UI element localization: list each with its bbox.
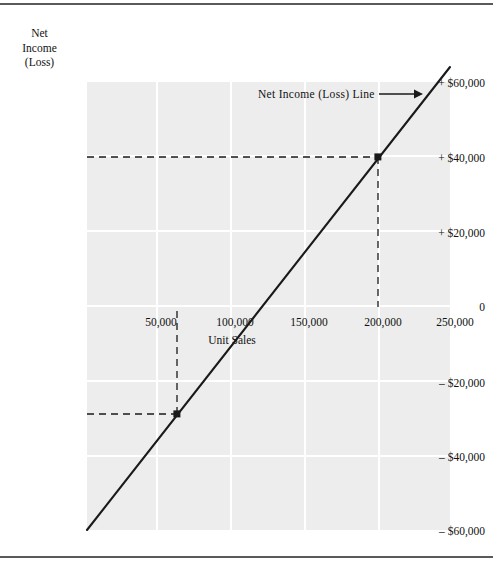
chart-vector-overlay xyxy=(0,0,493,556)
callout-arrow-head-icon xyxy=(414,90,423,99)
marker-target-profit-point xyxy=(374,153,381,160)
marker-breakeven-loss-point xyxy=(173,410,180,417)
bottom-divider-rule xyxy=(0,556,493,558)
net-income-loss-chart: Net Income (Loss) + $60,000 + $40,000 + … xyxy=(0,0,493,556)
net-income-loss-line xyxy=(87,67,450,530)
